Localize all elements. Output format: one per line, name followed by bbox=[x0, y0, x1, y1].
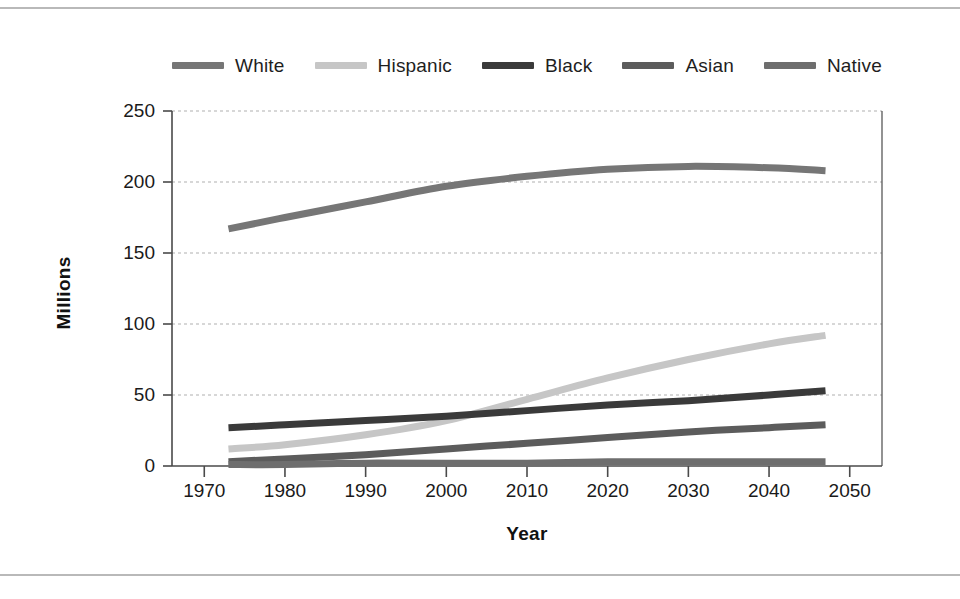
y-tick-label-250: 250 bbox=[93, 101, 155, 120]
x-tick-label-2020: 2020 bbox=[568, 481, 648, 500]
x-tick-label-2050: 2050 bbox=[810, 481, 890, 500]
gridlines bbox=[172, 111, 882, 395]
y-axis-title: Millions bbox=[53, 223, 75, 363]
plot-area: Millions Year 050100150200250 1970198019… bbox=[0, 0, 960, 599]
y-tick-label-0: 0 bbox=[93, 456, 155, 475]
x-tick-label-2030: 2030 bbox=[648, 481, 728, 500]
series-line-native bbox=[228, 462, 825, 465]
y-tick-label-100: 100 bbox=[93, 314, 155, 333]
x-tick-label-1980: 1980 bbox=[245, 481, 325, 500]
series-line-white bbox=[228, 166, 825, 229]
y-tick-label-150: 150 bbox=[93, 243, 155, 262]
data-series-group bbox=[228, 166, 825, 464]
x-tick-label-1970: 1970 bbox=[164, 481, 244, 500]
x-tick-label-2000: 2000 bbox=[406, 481, 486, 500]
x-axis-title: Year bbox=[172, 523, 882, 545]
x-tick-label-2040: 2040 bbox=[729, 481, 809, 500]
x-tick-label-2010: 2010 bbox=[487, 481, 567, 500]
x-tick-label-1990: 1990 bbox=[326, 481, 406, 500]
y-tick-label-50: 50 bbox=[93, 385, 155, 404]
y-tick-label-200: 200 bbox=[93, 172, 155, 191]
plot-svg bbox=[0, 0, 960, 599]
chart-figure: White Hispanic Black Asian Native Millio… bbox=[0, 0, 960, 599]
